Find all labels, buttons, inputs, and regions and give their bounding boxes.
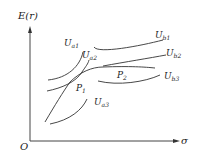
curve-label-ua2: Ua2 <box>82 50 97 61</box>
curve-label-ub3: Ub3 <box>164 71 179 82</box>
axes <box>28 26 180 143</box>
curve-label-ua1: Ua1 <box>64 38 79 49</box>
efficient-frontier <box>45 67 155 122</box>
svg-text:P2: P2 <box>116 70 127 81</box>
y-axis-arrow-icon <box>28 26 32 33</box>
svg-text:Ua3: Ua3 <box>94 97 109 108</box>
x-axis-label: σ <box>181 135 189 146</box>
x-axis-arrow-icon <box>173 139 180 143</box>
y-axis-label: E(r) <box>17 10 38 21</box>
diagram-canvas: E(r) σ O Ua1 Ua2 Ua3 Ub1 Ub2 Ub3 P1 P2 <box>0 0 198 161</box>
curve-ub1 <box>94 40 163 50</box>
origin-label: O <box>20 141 28 152</box>
svg-text:Ua2: Ua2 <box>82 50 97 61</box>
curve-label-ub2: Ub2 <box>166 48 181 59</box>
svg-text:Ub1: Ub1 <box>155 30 170 41</box>
point-label-p1: P1 <box>75 83 86 94</box>
curve-ub3 <box>98 75 160 83</box>
svg-text:Ub3: Ub3 <box>164 71 179 82</box>
curve-label-ub1: Ub1 <box>155 30 170 41</box>
curve-ua3 <box>50 99 87 124</box>
svg-text:P1: P1 <box>75 83 86 94</box>
curve-label-ua3: Ua3 <box>94 97 109 108</box>
svg-text:Ub2: Ub2 <box>166 48 181 59</box>
svg-text:Ua1: Ua1 <box>64 38 79 49</box>
curve-ub2 <box>103 55 166 66</box>
point-label-p2: P2 <box>116 70 127 81</box>
